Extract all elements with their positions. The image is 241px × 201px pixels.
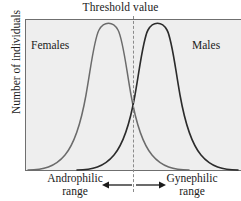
threshold-distribution-figure: Threshold value Number of individuals Fe…	[0, 0, 241, 201]
right-arrow-icon	[136, 182, 166, 189]
threshold-dashed-line	[133, 16, 134, 192]
figure-title: Threshold value	[0, 1, 241, 13]
curve-label-males: Males	[192, 39, 220, 51]
left-arrow-icon	[102, 182, 132, 189]
gynephilic-range-line2: range	[179, 185, 205, 197]
androphilic-range-line1: Androphilic	[47, 172, 103, 184]
y-axis-label: Number of individuals	[10, 2, 22, 122]
curve-label-females: Females	[31, 39, 69, 51]
gynephilic-range-line1: Gynephilic	[166, 172, 217, 184]
androphilic-range-line2: range	[62, 185, 88, 197]
range-direction-arrows	[102, 178, 166, 192]
